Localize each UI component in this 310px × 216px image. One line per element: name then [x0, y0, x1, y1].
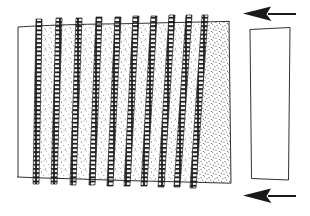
deformation-diagram — [0, 0, 310, 216]
deformed-block — [17, 15, 231, 188]
figure-canvas: Hand-drawn shear deformation sketch Ink … — [0, 0, 310, 216]
